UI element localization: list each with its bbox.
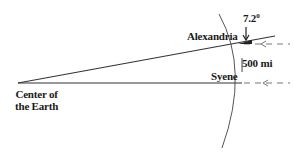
angle-label: 7.20 bbox=[243, 12, 259, 24]
eratosthenes-diagram: Alexandria Syene 500 mi 7.20 Center of t… bbox=[0, 0, 294, 154]
earth-center-label: Center of the Earth bbox=[15, 88, 58, 112]
earth-center-label-line1: Center of bbox=[15, 88, 58, 100]
earth-center-label-line2: the Earth bbox=[15, 100, 58, 112]
distance-label: 500 mi bbox=[242, 57, 272, 69]
angle-degree-symbol: 0 bbox=[256, 12, 259, 20]
angle-value: 7.2 bbox=[243, 12, 256, 24]
sunray-alexandria-arrow-icon bbox=[261, 41, 266, 47]
alexandria-label: Alexandria bbox=[187, 30, 238, 42]
syene-label: Syene bbox=[211, 70, 238, 82]
